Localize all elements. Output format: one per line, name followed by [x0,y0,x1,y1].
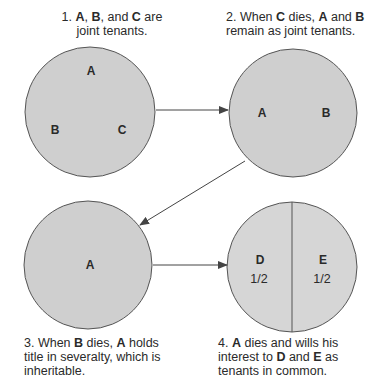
label-d: D [256,253,265,267]
label-a: A [86,258,95,272]
circle-step-4: D 1/2 E 1/2 [227,202,357,332]
share-d: 1/2 [250,272,267,286]
circle-step-2: A B [229,49,357,177]
share-e: 1/2 [313,272,330,286]
arrow-2-to-3 [140,161,245,225]
circle-step-3: A [24,201,152,329]
label-b: B [322,106,331,120]
label-a: A [258,106,267,120]
label-a: A [87,64,96,78]
diagram-canvas: A B C A B A D 1/2 E 1/2 [0,0,382,385]
label-e: E [319,253,327,267]
circle-step-1: A B C [25,47,155,177]
label-b: B [51,123,60,137]
label-c: C [118,123,127,137]
